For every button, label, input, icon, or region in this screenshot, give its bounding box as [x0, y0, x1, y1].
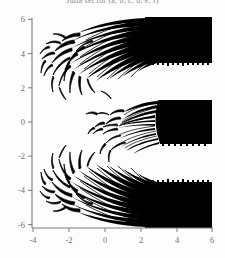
x-tick-label: -2 [65, 235, 72, 245]
figure-panel: Julia set for (a, b, c, d, e, f) [0, 0, 225, 258]
y-tick-label: -6 [18, 220, 25, 230]
x-tick-label: 2 [139, 235, 143, 245]
x-axis [32, 228, 213, 232]
y-tick-label: 6 [21, 14, 25, 24]
fractal-middle-lobe [86, 91, 212, 162]
y-tick-labels: 6 4 2 0 -2 -4 -6 [18, 14, 26, 229]
y-tick-label: 0 [21, 117, 25, 127]
x-tick-label: 0 [103, 235, 107, 245]
y-tick-label: -2 [18, 151, 25, 161]
y-tick-label: 4 [21, 49, 26, 59]
y-tick-label: -4 [18, 185, 26, 195]
fractal-lower-lobe [40, 145, 212, 228]
fractal-upper-lobe [40, 17, 212, 100]
x-tick-label: -4 [29, 235, 37, 245]
x-tick-label: 6 [210, 235, 214, 245]
fractal-plot: 6 4 2 0 -2 -4 -6 -4 -2 0 2 4 6 [0, 0, 225, 258]
x-tick-label: 4 [175, 235, 180, 245]
y-tick-label: 2 [21, 83, 25, 93]
y-axis [28, 18, 32, 228]
x-tick-labels: -4 -2 0 2 4 6 [29, 235, 214, 245]
